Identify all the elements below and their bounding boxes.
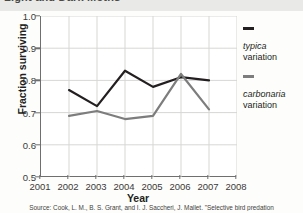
legend-item: typicavariation xyxy=(243,23,303,62)
figure-title: Light and Dark Moths xyxy=(4,0,120,3)
legend-series-sub: variation xyxy=(243,52,303,63)
y-tick-label: 0.6 xyxy=(8,139,36,150)
figure-root: Light and Dark Moths 0.50.60.70.80.91.0 … xyxy=(0,0,303,213)
legend-color-swatch xyxy=(243,27,254,30)
y-tick-mark xyxy=(35,15,40,16)
x-tick-mark xyxy=(179,175,180,179)
legend-label: typicavariation xyxy=(243,41,303,62)
x-axis-label: Year xyxy=(40,192,236,204)
x-tick-mark xyxy=(39,175,40,179)
y-tick-mark xyxy=(35,112,40,113)
legend-color-swatch xyxy=(243,75,254,78)
x-tick-label: 2006 xyxy=(169,181,190,192)
x-tick-mark xyxy=(207,175,208,179)
x-tick-mark xyxy=(123,175,124,179)
x-tick-mark xyxy=(235,175,236,179)
chart-figure: 0.50.60.70.80.91.0 200120022003200420052… xyxy=(0,11,303,213)
legend-item: carbonariavariation xyxy=(243,71,303,110)
y-tick-mark xyxy=(35,80,40,81)
x-tick-label: 2007 xyxy=(197,181,218,192)
x-tick-mark xyxy=(67,175,68,179)
legend-series-name: typica xyxy=(243,41,303,52)
x-tick-label: 2002 xyxy=(57,181,78,192)
y-tick-mark xyxy=(35,47,40,48)
x-tick-mark xyxy=(95,175,96,179)
x-tick-label: 2003 xyxy=(85,181,106,192)
y-tick-mark xyxy=(35,144,40,145)
figure-title-band: Light and Dark Moths xyxy=(0,0,303,11)
chart-legend: typicavariationcarbonariavariation xyxy=(243,23,303,119)
legend-series-name: carbonaria xyxy=(243,89,303,100)
source-citation: Source: Cook, L. M., B. S. Grant, and I.… xyxy=(0,204,303,211)
x-tick-label: 2004 xyxy=(113,181,134,192)
legend-label: carbonariavariation xyxy=(243,89,303,110)
y-axis-label: Fraction surviving xyxy=(16,14,28,124)
x-tick-label: 2001 xyxy=(29,181,50,192)
x-tick-label: 2005 xyxy=(141,181,162,192)
legend-series-sub: variation xyxy=(243,100,303,111)
x-tick-mark xyxy=(151,175,152,179)
x-tick-label: 2008 xyxy=(225,181,246,192)
